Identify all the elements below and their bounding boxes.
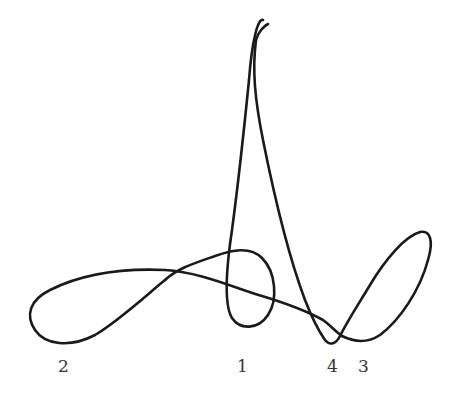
label-3: 3 (358, 358, 369, 375)
label-1: 1 (237, 358, 248, 375)
curve-segment-right-loop (254, 24, 431, 343)
curve-segment-left-loop (30, 270, 342, 344)
label-2: 2 (58, 358, 69, 375)
label-4: 4 (327, 358, 338, 375)
curve-diagram (0, 0, 452, 407)
